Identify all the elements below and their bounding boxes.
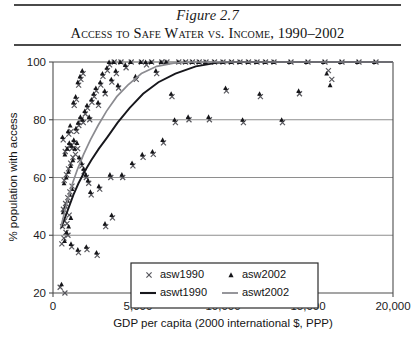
chart-legend[interactable]: asw1990asw2002aswt1990aswt2002 [131, 263, 318, 308]
data-point-asw2002 [102, 88, 107, 93]
y-tick-label-20: 20 [33, 287, 46, 299]
legend-label-asw1990[interactable]: asw1990 [160, 268, 204, 280]
data-point-asw2002 [130, 160, 135, 165]
data-point-asw2002 [296, 88, 301, 93]
data-point-asw2002 [73, 94, 78, 99]
data-point-asw2002 [257, 91, 262, 96]
data-point-asw2002 [109, 212, 114, 217]
series-asw2002 [59, 59, 377, 286]
data-point-asw2002 [69, 241, 74, 246]
y-axis-label: % population with access [7, 112, 19, 241]
data-point-asw2002 [66, 224, 71, 229]
y-tick-label-80: 80 [33, 114, 46, 126]
data-point-asw2002 [96, 100, 101, 105]
y-axis-ticks [49, 62, 53, 293]
data-point-asw2002 [113, 68, 118, 73]
scatter-chart: 05,00010,00015,00020,000 20406080100 GDP… [0, 46, 415, 332]
data-point-asw2002 [108, 172, 113, 177]
data-point-asw2002 [75, 247, 80, 252]
data-point-asw2002 [97, 184, 102, 189]
trend-line-aswt1990 [61, 62, 393, 228]
data-point-asw2002 [80, 68, 85, 73]
figure-title: Access to Safe Water vs. Income, 1990–20… [0, 25, 415, 42]
data-point-asw2002 [59, 282, 64, 287]
data-point-asw2002 [85, 103, 90, 108]
data-point-asw2002 [150, 149, 155, 154]
data-point-asw2002 [88, 189, 93, 194]
trend-lines [61, 62, 393, 228]
header-rule-top [14, 4, 401, 6]
x-tick-label-20000: 20,000 [375, 300, 410, 312]
data-point-asw2002 [140, 152, 145, 157]
plot-area: 05,00010,00015,00020,000 20406080100 GDP… [0, 46, 415, 332]
data-point-asw2002 [103, 221, 108, 226]
data-point-asw2002 [119, 172, 124, 177]
data-point-asw2002 [153, 68, 158, 73]
x-axis-label: GDP per capita (2000 international $, PP… [113, 317, 333, 329]
data-point-asw2002 [93, 85, 98, 90]
gridlines [53, 120, 393, 236]
y-tick-label-100: 100 [27, 56, 46, 68]
data-point-asw2002 [324, 71, 329, 76]
data-point-asw2002 [123, 62, 128, 67]
data-point-asw2002 [68, 123, 73, 128]
data-point-asw2002 [94, 250, 99, 255]
data-point-asw2002 [169, 91, 174, 96]
data-point-asw2002 [186, 114, 191, 119]
legend-label-aswt1990[interactable]: aswt1990 [160, 286, 207, 298]
data-point-asw2002 [109, 77, 114, 82]
trend-line-aswt2002 [61, 62, 393, 227]
legend-label-asw2002[interactable]: asw2002 [242, 268, 286, 280]
data-point-asw2002 [100, 71, 105, 76]
data-point-asw2002 [98, 80, 103, 85]
y-tick-labels: 20406080100 [27, 56, 46, 299]
y-tick-label-40: 40 [33, 229, 46, 241]
x-tick-label-0: 0 [50, 300, 56, 312]
data-point-asw2002 [60, 134, 65, 139]
data-point-asw2002 [84, 244, 89, 249]
data-point-asw2002 [223, 85, 228, 90]
data-point-asw2002 [86, 178, 91, 183]
data-point-asw2002 [160, 137, 165, 142]
data-point-asw2002 [71, 137, 76, 142]
data-point-asw2002 [328, 83, 333, 88]
data-point-asw2002 [116, 83, 121, 88]
figure-number: Figure 2.7 [0, 7, 415, 24]
legend-label-aswt2002[interactable]: aswt2002 [242, 286, 289, 298]
figure-container: Figure 2.7 Access to Safe Water vs. Inco… [0, 0, 415, 340]
data-point-asw2002 [68, 215, 73, 220]
data-point-asw2002 [206, 114, 211, 119]
y-tick-label-60: 60 [33, 172, 46, 184]
